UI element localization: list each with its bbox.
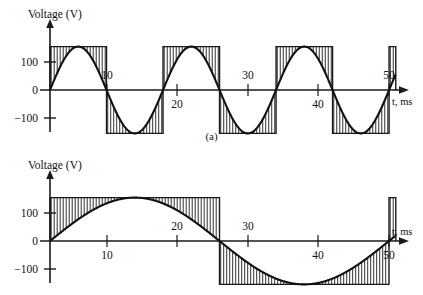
panel-b-x-ticklabel-50: 50 <box>383 249 395 261</box>
panel-b-y-axis-title: Voltage (V) <box>28 159 82 172</box>
panel-a-x-ticklabel-20: 20 <box>171 98 183 110</box>
panel-a-x-axis-title: t, ms <box>392 96 412 107</box>
figure-container: Voltage (V) 100 0 −100 10 20 30 40 50 t,… <box>0 0 423 295</box>
panel-b-x-ticklabel-30: 30 <box>242 220 254 232</box>
panel-a-y-ticklabel-neg100: −100 <box>14 112 38 124</box>
panel-a-y-axis-arrow <box>46 19 54 28</box>
panel-a-plot: Voltage (V) 100 0 −100 10 20 30 40 50 t,… <box>0 0 423 148</box>
panel-b-y-ticklabel-neg100: −100 <box>14 263 38 275</box>
panel-a-caption: (a) <box>0 130 423 142</box>
panel-b-x-ticklabel-10: 10 <box>101 249 113 261</box>
panel-a-x-ticklabel-10: 10 <box>101 69 113 81</box>
panel-b-x-ticklabel-20: 20 <box>171 220 183 232</box>
panel-a-y-ticklabel-0: 0 <box>32 84 38 96</box>
chart-panel-a: Voltage (V) 100 0 −100 10 20 30 40 50 t,… <box>0 0 423 148</box>
panel-a-x-ticklabel-50: 50 <box>383 69 395 81</box>
panel-b-x-axis-arrow <box>399 237 409 245</box>
chart-panel-b: Voltage (V) 100 0 −100 10 20 30 40 50 t,… <box>0 147 423 295</box>
panel-a-x-axis-arrow <box>399 86 409 94</box>
panel-a-x-ticklabel-30: 30 <box>242 69 254 81</box>
panel-b-y-ticklabel-100: 100 <box>21 207 39 219</box>
panel-b-y-ticklabel-0: 0 <box>32 235 38 247</box>
panel-a-x-ticklabel-40: 40 <box>312 98 324 110</box>
panel-b-x-axis-title: t, ms <box>392 226 412 237</box>
panel-b-x-ticklabel-40: 40 <box>312 249 324 261</box>
panel-b-plot: Voltage (V) 100 0 −100 10 20 30 40 50 t,… <box>0 147 423 295</box>
panel-a-y-ticklabel-100: 100 <box>21 56 39 68</box>
panel-b-y-axis-arrow <box>46 170 54 179</box>
panel-a-y-axis-title: Voltage (V) <box>28 8 82 21</box>
